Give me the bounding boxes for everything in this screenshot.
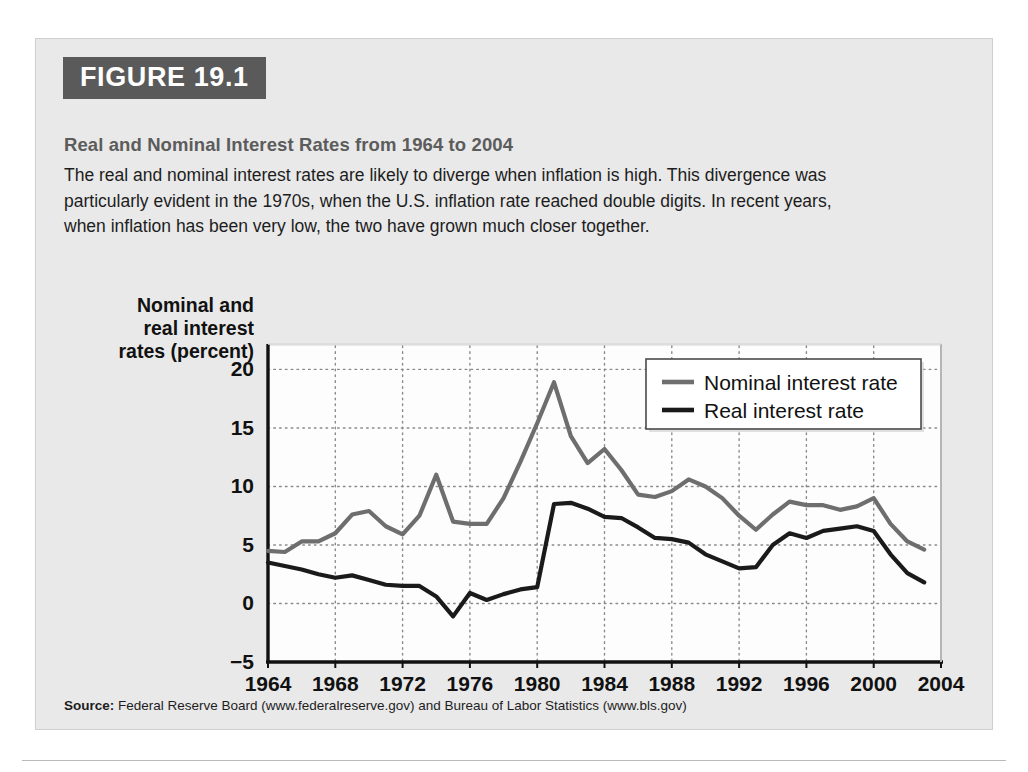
source-text: Federal Reserve Board (www.federalreserv… [118,698,687,713]
chart-container: 20151050−5196419681972197619801984198819… [36,284,994,694]
x-tick-label: 1984 [581,672,628,694]
figure-title: Real and Nominal Interest Rates from 196… [64,134,513,156]
y-axis-title-line: rates (percent) [119,340,254,362]
source-note: Source: Federal Reserve Board (www.feder… [64,698,687,713]
x-tick-label: 1968 [312,672,359,694]
legend-label: Nominal interest rate [704,371,898,394]
legend-label: Real interest rate [704,399,864,422]
y-tick-label: 5 [242,533,254,556]
y-tick-label: 15 [231,416,255,439]
x-tick-label: 1972 [379,672,426,694]
y-axis-title-line: Nominal and [137,294,254,316]
page-divider-rule [22,760,1006,761]
y-tick-label: 0 [242,591,254,614]
cropped-page-text-sliver [0,0,1028,22]
figure-caption: The real and nominal interest rates are … [64,163,854,240]
x-tick-label: 1996 [783,672,830,694]
y-tick-label: 10 [231,474,254,497]
source-label: Source: [64,698,114,713]
x-tick-label: 1992 [716,672,763,694]
interest-rates-line-chart: 20151050−5196419681972197619801984198819… [36,284,994,694]
x-tick-label: 2000 [850,672,897,694]
figure-panel: FIGURE 19.1 Real and Nominal Interest Ra… [35,38,993,730]
figure-number-badge: FIGURE 19.1 [63,57,266,99]
x-tick-label: 2004 [918,672,965,694]
x-tick-label: 1964 [245,672,292,694]
x-tick-label: 1988 [648,672,695,694]
y-axis-title-line: real interest [143,317,254,339]
x-tick-label: 1976 [447,672,494,694]
x-tick-label: 1980 [514,672,561,694]
y-tick-label: −5 [230,650,254,673]
